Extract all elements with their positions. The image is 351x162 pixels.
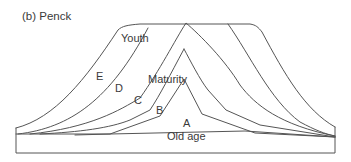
label-b: B bbox=[156, 105, 163, 116]
label-maturity: Maturity bbox=[148, 74, 187, 85]
label-youth: Youth bbox=[121, 33, 149, 44]
label-c: C bbox=[134, 95, 142, 106]
label-old-age: Old age bbox=[167, 131, 206, 142]
figure-title: (b) Penck bbox=[22, 11, 71, 23]
label-e: E bbox=[96, 71, 103, 82]
label-d: D bbox=[115, 83, 123, 94]
penck-slope-diagram: (b) Penck Youth E D Maturity C B A Old a… bbox=[0, 0, 351, 162]
profile-a bbox=[75, 79, 335, 137]
label-a: A bbox=[183, 118, 190, 129]
